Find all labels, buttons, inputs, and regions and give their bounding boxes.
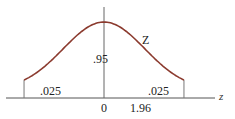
x-tick-label: 1.96 — [130, 101, 151, 115]
normal-distribution-chart: Z .95 .025 .025 0 1.96 z — [0, 0, 235, 119]
center-area-label: .95 — [93, 52, 108, 66]
x-tick-label: 0 — [101, 101, 107, 115]
left-tail-area-label: .025 — [40, 84, 61, 98]
right-tail-area-label: .025 — [148, 84, 169, 98]
x-axis-label: z — [218, 90, 224, 102]
curve-label: Z — [142, 33, 149, 47]
